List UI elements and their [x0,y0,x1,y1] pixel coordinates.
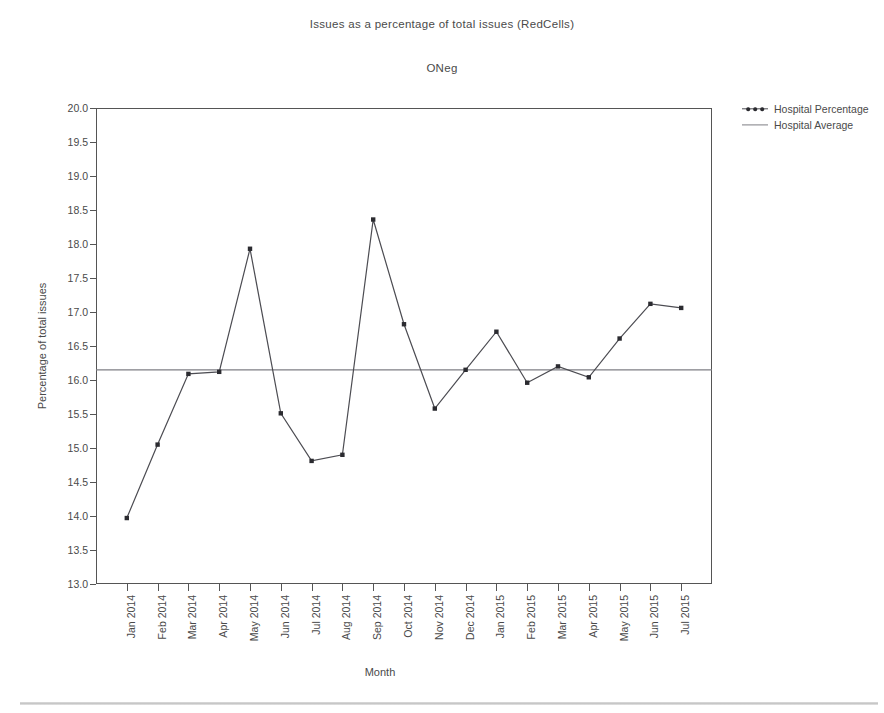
data-point-marker [525,381,529,385]
chart-title: Issues as a percentage of total issues (… [0,18,884,30]
data-point-marker [217,370,221,374]
x-axis-tick-label: Mar 2014 [186,595,198,639]
x-axis-tick-label: Aug 2014 [340,595,352,640]
data-point-marker [556,364,560,368]
x-axis-tick-label: Jun 2015 [648,595,660,638]
data-point-marker [186,372,190,376]
x-axis-tick-label: Mar 2015 [556,595,568,639]
x-axis-tick-label: Apr 2015 [587,595,599,638]
x-axis-tick-mark [466,584,467,591]
y-axis-tick-mark [90,448,96,449]
y-axis-label-text: Percentage of total issues [36,283,48,410]
series-layer [96,108,712,584]
x-axis-tick-mark [127,584,128,591]
x-axis-tick-label: Feb 2015 [525,595,537,639]
x-axis-tick-label: Jul 2015 [679,595,691,635]
data-point-marker [125,516,129,520]
y-axis-tick-mark [90,482,96,483]
y-axis-tick-mark [90,550,96,551]
data-point-marker [648,302,652,306]
x-axis-tick-label: Jan 2015 [494,595,506,638]
y-axis-label: Percentage of total issues [34,108,50,584]
x-axis-tick-mark [373,584,374,591]
x-axis-tick-mark [158,584,159,591]
x-axis-label: Month [0,666,760,678]
x-axis-tick-mark [527,584,528,591]
x-axis-tick-label: Jun 2014 [279,595,291,638]
y-axis-tick-mark [90,312,96,313]
chart-page: Issues as a percentage of total issues (… [0,0,884,713]
x-axis-tick-label: Dec 2014 [464,595,476,640]
data-point-marker [309,459,313,463]
x-axis-tick-label: Apr 2014 [217,595,229,638]
y-axis-tick-mark [90,108,96,109]
y-axis-tick-mark [90,346,96,347]
y-axis-tick-mark [90,380,96,381]
data-point-marker [371,217,375,221]
hospital-percentage-markers [125,217,684,520]
data-point-marker [340,453,344,457]
plot-area: 20.019.519.018.518.017.517.016.516.015.5… [96,108,712,584]
x-axis-tick-mark [219,584,220,591]
legend-line-icon [742,120,768,130]
legend-label-hospital-percentage: Hospital Percentage [774,103,869,115]
x-axis-tick-label: Nov 2014 [433,595,445,640]
x-axis-tick-mark [650,584,651,591]
y-axis-tick-mark [90,278,96,279]
data-point-marker [587,375,591,379]
y-axis-tick-mark [90,142,96,143]
data-point-marker [279,411,283,415]
x-axis-tick-label: Sep 2014 [371,595,383,640]
x-axis-tick-mark [250,584,251,591]
x-axis-tick-mark [312,584,313,591]
x-axis-tick-label: Feb 2014 [156,595,168,639]
x-axis-tick-label: May 2014 [248,595,260,641]
legend-item-hospital-average: Hospital Average [742,119,882,131]
data-point-marker [617,336,621,340]
y-axis-tick-mark [90,414,96,415]
data-point-marker [402,322,406,326]
data-point-marker [679,306,683,310]
y-axis-tick-mark [90,176,96,177]
x-axis-tick-label: May 2015 [618,595,630,641]
hospital-percentage-line [127,220,681,519]
y-axis-tick-mark [90,244,96,245]
x-axis-tick-mark [620,584,621,591]
data-point-marker [433,406,437,410]
x-axis-tick-mark [435,584,436,591]
y-axis-tick-mark [90,584,96,585]
chart-legend: Hospital Percentage Hospital Average [742,103,882,135]
legend-item-hospital-percentage: Hospital Percentage [742,103,882,115]
legend-line-marker-icon [742,104,768,114]
x-axis-tick-mark [404,584,405,591]
chart-subtitle: ONeg [0,62,884,74]
data-point-marker [155,442,159,446]
x-axis-tick-mark [342,584,343,591]
x-axis-tick-mark [681,584,682,591]
data-point-marker [248,247,252,251]
y-axis-tick-mark [90,516,96,517]
x-axis-tick-mark [188,584,189,591]
x-axis-tick-mark [558,584,559,591]
x-axis-tick-mark [496,584,497,591]
legend-label-hospital-average: Hospital Average [774,119,853,131]
x-axis-tick-label: Oct 2014 [402,595,414,638]
data-point-marker [494,330,498,334]
x-axis-tick-mark [589,584,590,591]
x-axis-tick-label: Jan 2014 [125,595,137,638]
data-point-marker [463,368,467,372]
x-axis-tick-mark [281,584,282,591]
y-axis-tick-mark [90,210,96,211]
x-axis-tick-label: Jul 2014 [310,595,322,635]
page-bottom-rule [20,702,878,705]
